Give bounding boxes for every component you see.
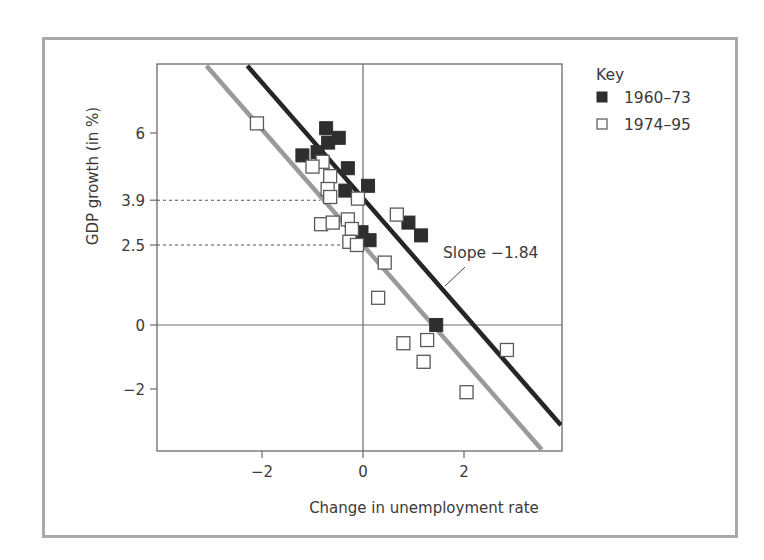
- x-axis-ticks: −202: [251, 451, 469, 481]
- annotation-pointer: [445, 267, 465, 286]
- x-tick-label: −2: [251, 463, 273, 481]
- filled-square-point: [430, 319, 443, 332]
- open-square-point: [417, 355, 430, 368]
- legend-label-1960-73: 1960–73: [624, 89, 691, 107]
- filled-square-point: [363, 234, 376, 247]
- legend-title: Key: [596, 66, 624, 84]
- y-tick-label: 3.9: [121, 192, 145, 210]
- annotations: Slope −1.84: [443, 244, 538, 286]
- open-square-point: [378, 256, 391, 269]
- open-square-point: [500, 343, 513, 356]
- open-square-point: [345, 223, 358, 236]
- legend-label-1974-95: 1974–95: [624, 116, 691, 134]
- open-square-point: [421, 334, 434, 347]
- scatter-chart: −202.53.96 −202 Slope −1.84 Change in un…: [0, 0, 764, 560]
- open-square-point: [306, 160, 319, 173]
- legend-filled-square-icon: [597, 92, 607, 102]
- y-axis-ticks: −202.53.96: [121, 125, 157, 399]
- filled-square-point: [362, 179, 375, 192]
- y-axis-title: GDP growth (in %): [84, 107, 102, 245]
- open-square-point: [326, 216, 339, 229]
- open-square-point: [324, 170, 337, 183]
- y-tick-label: −2: [123, 381, 145, 399]
- y-tick-label: 0: [135, 317, 145, 335]
- open-square-point: [324, 191, 337, 204]
- open-square-point: [397, 337, 410, 350]
- filled-square-point: [320, 122, 333, 135]
- open-square-point: [351, 192, 364, 205]
- x-tick-label: 2: [459, 463, 469, 481]
- open-square-point: [390, 208, 403, 221]
- filled-square-point: [415, 229, 428, 242]
- open-square-point: [250, 117, 263, 130]
- legend-open-square-icon: [597, 119, 607, 129]
- slope-annotation: Slope −1.84: [443, 244, 538, 262]
- open-square-point: [350, 239, 363, 252]
- x-axis-title: Change in unemployment rate: [309, 499, 539, 517]
- open-square-point: [372, 291, 385, 304]
- x-tick-label: 0: [358, 463, 368, 481]
- open-square-point: [460, 386, 473, 399]
- filled-square-point: [339, 184, 352, 197]
- filled-square-point: [341, 162, 354, 175]
- y-tick-label: 6: [135, 125, 145, 143]
- y-tick-label: 2.5: [121, 237, 145, 255]
- legend: Key 1960–73 1974–95: [596, 66, 691, 134]
